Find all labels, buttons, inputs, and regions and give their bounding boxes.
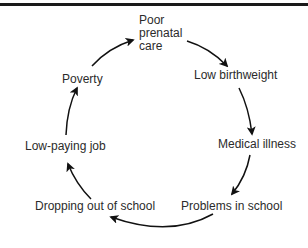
arrow-low-birthweight-to-medical-illness bbox=[239, 88, 252, 134]
node-poor-prenatal-care: Poor prenatal care bbox=[139, 14, 182, 53]
arrow-prenatal-care-to-low-birthweight bbox=[187, 41, 227, 66]
node-problems-in-school: Problems in school bbox=[181, 200, 282, 213]
node-medical-illness: Medical illness bbox=[218, 138, 296, 151]
node-low-paying-job: Low-paying job bbox=[25, 140, 106, 153]
arrow-low-paying-job-to-poverty bbox=[66, 88, 77, 135]
arrow-problems-to-dropping-out bbox=[111, 214, 213, 227]
arrow-dropping-out-to-low-paying-job bbox=[68, 164, 91, 199]
node-poverty: Poverty bbox=[62, 73, 103, 86]
arrow-poverty-to-prenatal-care bbox=[92, 40, 133, 66]
arrow-medical-illness-to-problems-in-school bbox=[232, 155, 250, 194]
node-low-birthweight: Low birthweight bbox=[194, 69, 277, 82]
node-dropping-out-of-school: Dropping out of school bbox=[35, 200, 155, 213]
cycle-diagram: Poor prenatal care Low birthweight Medic… bbox=[0, 0, 308, 248]
